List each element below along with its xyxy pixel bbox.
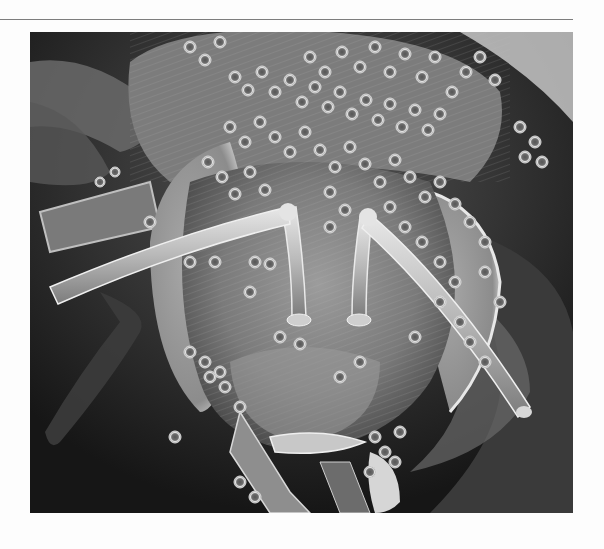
micrograph-figure: Frontal view of a bee head covered in po… bbox=[30, 32, 573, 513]
top-horizontal-rule bbox=[0, 19, 573, 20]
bee-head-micrograph bbox=[30, 32, 573, 513]
